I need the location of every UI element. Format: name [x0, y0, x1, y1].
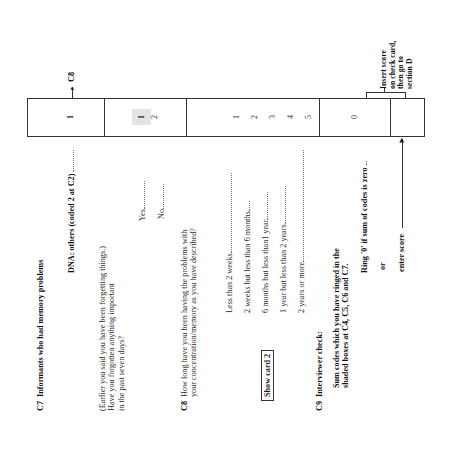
c8-option-1-label: Less than 2 weeks	[225, 253, 234, 313]
c7-dna-row: DNA: others (coded 2 at C2)	[67, 150, 76, 273]
leader-dots	[157, 184, 164, 209]
c9-instruction-line-2: shaded boxes at C4, C5, C6 and C7.	[341, 248, 350, 388]
show-card-box: Show card 2	[256, 350, 274, 401]
code-c8-5[interactable]: 5	[304, 111, 313, 123]
c9-ring-label: Ring '0' if sum of codes is zero	[360, 167, 369, 273]
score-bracket	[366, 92, 406, 98]
c7-number: C7	[36, 401, 45, 411]
c7-question-line-3: in the past seven days?	[117, 246, 126, 411]
code-cell-c7-dna: 1	[28, 99, 105, 136]
route-arrowhead-icon: ►	[67, 85, 77, 91]
c9-note-line-4: section D	[406, 41, 415, 89]
enter-score-arrowhead-icon: ►	[397, 136, 407, 144]
c9-instruction: Sum codes which you have ringed in the s…	[332, 248, 351, 388]
c7-option-yes: Yes	[138, 181, 147, 221]
leader-dots	[360, 161, 367, 165]
code-cell-c9-zero: 0	[320, 99, 391, 136]
code-c7-no[interactable]: 2	[150, 111, 159, 123]
code-box: 1 1 2 1 2 3 4 5 0	[27, 98, 425, 137]
c8-option-5-label: 2 years or more	[297, 262, 306, 313]
c9-number: C9	[315, 401, 324, 411]
leader-dots	[261, 192, 268, 220]
c9-or-label: or	[378, 262, 387, 270]
c8-option-2: 2 weeks but less than 6 months	[243, 201, 252, 313]
c8-question-line-1: How long have you been having the proble…	[180, 228, 189, 397]
c9-ring-row: Ring '0' if sum of codes is zero	[360, 161, 369, 273]
c8-option-4: 1 year but less than 2 years	[279, 186, 288, 313]
leader-dots	[138, 181, 145, 209]
rotated-questionnaire-page: C7 Informants who had memory problems DN…	[0, 0, 449, 453]
code-cell-c8: 1 2 3 4 5	[187, 99, 320, 136]
c9-enter-label: enter score	[397, 234, 406, 272]
c8-option-3-label: 6 months but less than1 year	[261, 220, 270, 313]
c9-heading: C9 Interviewer check:	[315, 331, 324, 411]
code-c8-4[interactable]: 4	[286, 111, 295, 123]
c9-instruction-line-1: Sum codes which you have ringed in the	[332, 248, 341, 388]
c9-title: Interviewer check:	[315, 331, 324, 397]
c7-option-no-label: No	[157, 209, 166, 219]
c7-option-yes-label: Yes	[138, 209, 147, 221]
c7-option-no: No	[157, 184, 166, 219]
c8-question-line-2: your concentration/memory as you have de…	[189, 228, 198, 397]
code-c9-zero[interactable]: 0	[350, 111, 359, 123]
show-card-label: Show card 2	[261, 350, 274, 401]
c8-option-4-label: 1 year but less than 2 years	[279, 224, 288, 313]
code-c8-2[interactable]: 2	[250, 111, 259, 123]
leader-dots	[279, 186, 286, 224]
c7-question-line-1: (Earlier you said you have been forgetti…	[98, 246, 107, 411]
code-cell-c7: 1 2	[105, 99, 187, 136]
leader-dots	[297, 150, 304, 262]
c7-route-label: C8	[67, 72, 76, 82]
c8-option-2-label: 2 weeks but less than 6 months	[243, 211, 252, 313]
c8-question: C8 How long have you been having the pro…	[180, 228, 199, 411]
c8-option-1: Less than 2 weeks	[225, 173, 234, 313]
c8-option-3: 6 months but less than1 year	[261, 192, 270, 313]
leader-dots	[67, 150, 74, 172]
c9-enter-row: enter score	[397, 234, 406, 272]
leader-dots	[225, 173, 232, 253]
c7-title: Informants who had memory problems	[36, 260, 45, 397]
c7-heading: C7 Informants who had memory problems	[36, 260, 45, 411]
score-entry-box[interactable]	[391, 99, 426, 136]
c8-number: C8	[180, 401, 199, 411]
code-c8-3[interactable]: 3	[268, 111, 277, 123]
leader-dots	[243, 201, 250, 211]
c7-dna-label: DNA: others (coded 2 at C2)	[67, 172, 76, 273]
c7-question: (Earlier you said you have been forgetti…	[98, 246, 126, 411]
code-c7-yes[interactable]: 1	[132, 109, 151, 125]
c7-question-line-2: Have you forgotten anything important	[107, 246, 116, 411]
code-c7-dna[interactable]: 1	[66, 111, 75, 123]
c9-note: Insert score on check card, then go to s…	[380, 41, 414, 89]
code-c8-1[interactable]: 1	[232, 111, 241, 123]
c8-option-5: 2 years or more	[297, 150, 306, 313]
enter-score-arrow-line	[402, 139, 403, 228]
